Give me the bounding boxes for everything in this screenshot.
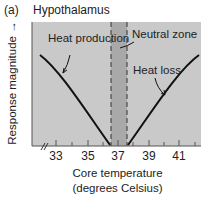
x-axis-label: Core temperature xyxy=(0,167,209,179)
x-tick-label: 41 xyxy=(167,149,191,163)
x-tick-label: 33 xyxy=(44,149,68,163)
annotation-heat-loss: Heat loss xyxy=(133,64,181,77)
y-axis-label: Response magnitude → xyxy=(6,18,20,148)
annotation-neutral-zone: Neutral zone xyxy=(132,28,197,41)
x-tick-label: 35 xyxy=(76,149,100,163)
x-axis-units: (degrees Celsius) xyxy=(0,182,209,194)
x-tick-label: 37 xyxy=(106,149,130,163)
annotation-heat-production: Heat production xyxy=(48,32,129,45)
x-tick-label: 39 xyxy=(137,149,161,163)
